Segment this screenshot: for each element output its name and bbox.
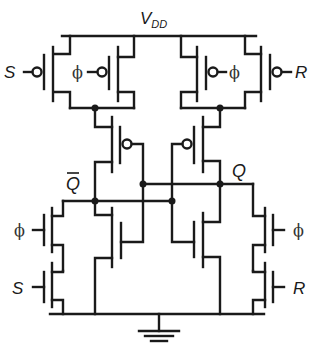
nmos-cross-left (95, 184, 143, 314)
nmos-cross-right (172, 184, 220, 314)
phi-label-top-left: ϕ (72, 63, 83, 82)
r-input-label-top: R (295, 63, 307, 82)
pmos-phi-right (181, 36, 226, 108)
pmos-s (24, 36, 70, 108)
inverter-bubble-icon (33, 68, 42, 77)
vdd-label: VDD (140, 9, 167, 30)
s-input-label-top: S (4, 63, 16, 82)
pmos-cross-left (95, 108, 143, 201)
ground-icon (139, 314, 179, 341)
nmos-r (253, 263, 284, 314)
phi-label-top-right: ϕ (229, 63, 240, 82)
nmos-s (33, 263, 63, 314)
s-input-label-bottom: S (12, 279, 24, 298)
phi-label-bottom-right: ϕ (293, 221, 304, 240)
nmos-phi-right (253, 184, 284, 271)
pmos-r (245, 36, 291, 108)
r-input-label-bottom: R (293, 279, 305, 298)
pmos-phi-left (88, 36, 134, 108)
pmos-cross-right (172, 108, 220, 201)
q-bar-label: Q (66, 174, 80, 194)
phi-label-bottom-left: ϕ (14, 221, 25, 240)
circuit-schematic: VDD S ϕ ϕ R (0, 0, 318, 349)
nmos-phi-left (33, 201, 63, 271)
q-label: Q (232, 161, 246, 181)
